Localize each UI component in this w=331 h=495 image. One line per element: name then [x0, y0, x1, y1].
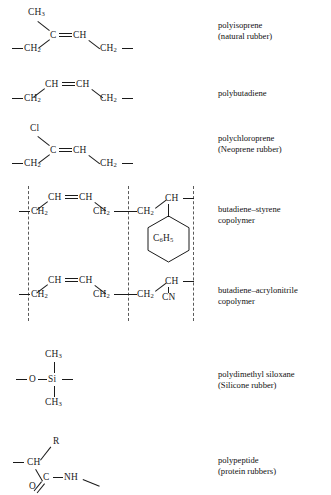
bond-c-cl	[37, 136, 49, 146]
bond-open-left	[13, 462, 24, 463]
bond-double-lower	[62, 85, 75, 86]
bond-open-right	[183, 198, 194, 199]
bond-double-upper	[65, 278, 78, 279]
bond-open-left	[16, 379, 27, 380]
atom-phenyl-label: C6H5	[153, 234, 173, 243]
atom-ch-styrene: CH	[165, 194, 178, 203]
atom-ch2-left: CH2	[31, 290, 48, 299]
bond-double-lower	[65, 198, 78, 199]
bond-open-right	[62, 379, 73, 380]
bond-double-upper	[59, 148, 72, 149]
bond-ch-ch2-right	[88, 40, 100, 49]
atom-ch-left: CH	[48, 276, 61, 285]
divider-right	[193, 186, 194, 321]
atom-c: C	[43, 473, 49, 482]
atom-c: C	[50, 31, 56, 40]
bond-open-right	[83, 479, 100, 487]
bond-open-left	[12, 48, 23, 49]
bond-open-left	[19, 211, 30, 212]
atom-ch-right: CH	[79, 276, 92, 285]
atom-ch3: CH3	[28, 8, 45, 17]
bond-double-upper	[65, 195, 78, 196]
atom-ch2-left: CH2	[24, 159, 41, 168]
bond-double-lower	[59, 36, 72, 37]
label-polypeptide: polypeptide (protein rubbers)	[218, 455, 276, 478]
atom-nh: NH	[64, 473, 78, 482]
elastomer-structure-figure: CH3 C CH CH2 CH2 polyisoprene (natural r…	[0, 0, 331, 495]
atom-ch-right: CH	[76, 80, 89, 89]
atom-ch2-acrylo: CH2	[137, 290, 154, 299]
label-polyisoprene: polyisoprene (natural rubber)	[218, 20, 272, 43]
atom-o: O	[29, 482, 36, 491]
atom-ch3-top: CH3	[45, 350, 62, 359]
bond-open-left	[12, 98, 23, 99]
label-polybutadiene: polybutadiene	[218, 88, 267, 99]
atom-c: C	[50, 146, 56, 155]
bond-c-nh	[53, 477, 63, 478]
atom-ch: CH	[73, 146, 86, 155]
bond-ch-r	[40, 447, 51, 461]
bond-double-upper	[62, 82, 75, 83]
atom-cn: CN	[162, 293, 175, 302]
atom-ch-right: CH	[79, 193, 92, 202]
atom-r: R	[53, 437, 59, 446]
bond-crossing-divider	[114, 294, 137, 295]
atom-cl: Cl	[30, 124, 39, 133]
bond-open-right	[183, 281, 194, 282]
atom-ch-acrylo: CH	[165, 277, 178, 286]
bond-open-right	[122, 163, 133, 164]
divider-left	[28, 186, 29, 321]
label-butadiene-styrene: butadiene–styrene copolymer	[218, 204, 281, 227]
label-butadiene-acrylonitrile: butadiene–acrylonitrile copolymer	[218, 285, 298, 308]
bond-open-left	[19, 294, 30, 295]
bond-si-ch3-up	[54, 362, 55, 373]
bond-si-ch3-down	[54, 386, 55, 397]
atom-ch-left: CH	[45, 80, 58, 89]
atom-ch2-left: CH2	[24, 44, 41, 53]
atom-ch: CH	[73, 31, 86, 40]
bond-o-si	[38, 379, 47, 380]
atom-ch2-left: CH2	[31, 207, 48, 216]
divider-middle	[128, 186, 129, 321]
bond-double-lower	[65, 281, 78, 282]
atom-ch2-mid: CH2	[93, 207, 110, 216]
atom-ch2-right: CH2	[100, 159, 117, 168]
bond-double-upper	[59, 33, 72, 34]
bond-open-right	[122, 98, 133, 99]
bond-c-ch3	[37, 21, 49, 31]
atom-ch-left: CH	[48, 193, 61, 202]
atom-ch2-left: CH2	[24, 94, 41, 103]
atom-ch2-mid: CH2	[93, 290, 110, 299]
bond-ch-c	[35, 469, 43, 482]
label-polydimethyl-siloxane: polydimethyl siloxane (Silicone rubber)	[218, 369, 295, 392]
atom-ch2-right: CH2	[100, 44, 117, 53]
atom-o: O	[29, 375, 36, 384]
atom-si: Si	[48, 375, 56, 384]
atom-ch3-bottom: CH3	[45, 398, 62, 407]
bond-ch-ch2-right	[88, 155, 100, 164]
label-polychloroprene: polychloroprene (Neoprene rubber)	[218, 133, 282, 156]
bond-open-right	[122, 48, 133, 49]
bond-double-lower	[59, 151, 72, 152]
bond-crossing-divider	[114, 211, 137, 212]
atom-ch2-right: CH2	[100, 94, 117, 103]
bond-open-left	[12, 163, 23, 164]
atom-ch: CH	[27, 458, 40, 467]
